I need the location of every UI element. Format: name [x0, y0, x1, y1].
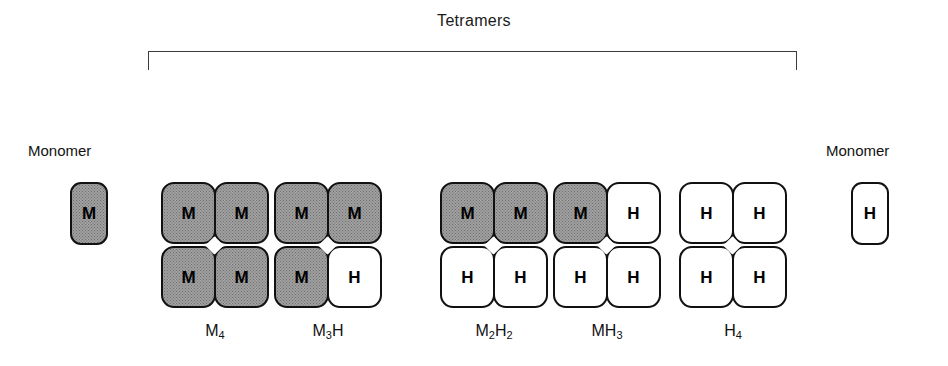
- subunit: H: [493, 246, 548, 308]
- label-tail: H: [332, 322, 344, 339]
- label-main: M: [205, 322, 218, 339]
- subunit: M: [440, 182, 495, 244]
- monomer-caption-left: Monomer: [28, 142, 91, 159]
- label-sub: 3: [616, 329, 622, 341]
- bracket-right-tick: [796, 51, 797, 70]
- subunit: H: [679, 182, 734, 244]
- label-main: M: [475, 322, 488, 339]
- subunit: M: [214, 182, 269, 244]
- subunit: H: [553, 246, 608, 308]
- tetramer-label-h4: H4: [679, 322, 787, 340]
- bracket-horizontal-line: [148, 51, 797, 52]
- subunit: H: [440, 246, 495, 308]
- tetramer-h4: H H H H: [679, 182, 787, 308]
- tetramer-m3h: M M M H: [274, 182, 382, 308]
- tetramers-bracket: [148, 51, 797, 71]
- label-sub: 3: [326, 329, 332, 341]
- subunit: H: [732, 246, 787, 308]
- label-tail-sub: 2: [506, 329, 512, 341]
- tetramers-bracket-label: Tetramers: [0, 12, 948, 30]
- subunit: M: [161, 182, 216, 244]
- monomer-subunit-m: M: [70, 182, 108, 245]
- tetramer-m4: M M M M: [161, 182, 269, 308]
- tetramer-mh3: M H H H: [553, 182, 661, 308]
- label-sub: 4: [219, 329, 225, 341]
- bracket-left-tick: [148, 51, 149, 70]
- subunit: H: [327, 246, 382, 308]
- label-main: M: [312, 322, 325, 339]
- label-sub: 4: [736, 329, 742, 341]
- tetramer-label-m2h2: M2H2: [440, 322, 548, 340]
- subunit: M: [214, 246, 269, 308]
- isozyme-tetramer-diagram: Tetramers Monomer M Monomer H M M M M M4…: [0, 0, 948, 366]
- tetramer-label-m3h: M3H: [274, 322, 382, 340]
- subunit: M: [327, 182, 382, 244]
- subunit: H: [606, 246, 661, 308]
- label-sub: 2: [489, 329, 495, 341]
- subunit: M: [274, 182, 329, 244]
- subunit: H: [732, 182, 787, 244]
- subunit: M: [493, 182, 548, 244]
- tetramer-m2h2: M M H H: [440, 182, 548, 308]
- tetramer-label-mh3: MH3: [553, 322, 661, 340]
- subunit: H: [606, 182, 661, 244]
- monomer-caption-right: Monomer: [826, 142, 889, 159]
- subunit: H: [679, 246, 734, 308]
- label-main: H: [724, 322, 736, 339]
- subunit: M: [161, 246, 216, 308]
- label-main: MH: [591, 322, 616, 339]
- monomer-subunit-h: H: [851, 182, 889, 245]
- subunit: M: [553, 182, 608, 244]
- tetramer-label-m4: M4: [161, 322, 269, 340]
- subunit: M: [274, 246, 329, 308]
- label-tail: H: [495, 322, 507, 339]
